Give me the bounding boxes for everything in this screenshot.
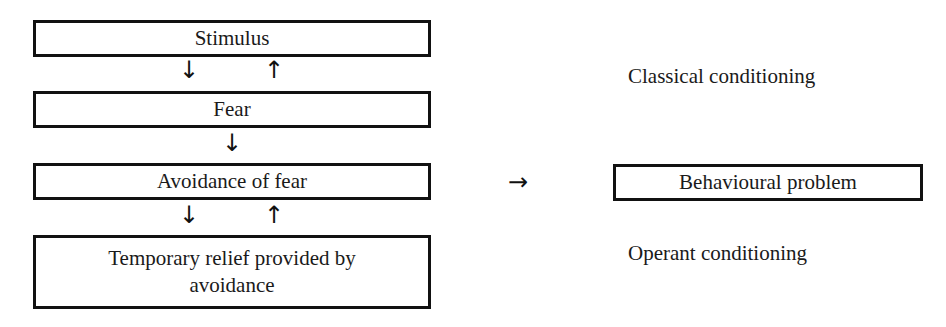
arrow-up-icon: ↑ (264, 203, 284, 227)
avoidance-label: Avoidance of fear (157, 168, 307, 195)
arrow-down-icon: ↓ (179, 58, 199, 82)
relief-box: Temporary relief provided by avoidance (33, 235, 431, 309)
stimulus-label: Stimulus (195, 25, 270, 52)
operant-conditioning-label: Operant conditioning (628, 241, 807, 266)
arrow-down-icon: ↓ (222, 131, 242, 155)
behavioural-problem-box: Behavioural problem (613, 164, 923, 201)
arrow-up-icon: ↑ (264, 58, 284, 82)
stimulus-box: Stimulus (33, 20, 431, 57)
behavioural-problem-label: Behavioural problem (679, 169, 857, 196)
fear-box: Fear (33, 91, 431, 128)
arrow-right-icon: → (508, 170, 528, 194)
relief-label: Temporary relief provided by avoidance (76, 245, 388, 300)
arrow-down-icon: ↓ (179, 203, 199, 227)
avoidance-box: Avoidance of fear (33, 163, 431, 200)
classical-conditioning-label: Classical conditioning (628, 64, 815, 89)
fear-label: Fear (213, 96, 250, 123)
